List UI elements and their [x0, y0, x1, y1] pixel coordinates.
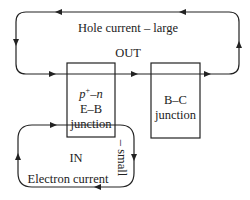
eb-junction-type: p+–n: [67, 83, 115, 102]
hole-current-arrows: [13, 9, 242, 77]
out-label: OUT: [115, 47, 141, 60]
arrow-down-icon: [131, 154, 137, 161]
arrow-right-icon: [131, 71, 138, 77]
hole-current-label: Hole current – large: [78, 22, 178, 35]
n-type-text: –n: [90, 87, 103, 101]
bc-junction-word: junction: [151, 108, 200, 123]
arrow-right-icon: [49, 71, 56, 77]
bc-label: B–C: [151, 93, 200, 108]
small-label: – small: [116, 140, 129, 176]
arrow-left-icon: [55, 9, 62, 15]
in-label: IN: [69, 152, 82, 165]
arrow-up-icon: [15, 153, 21, 160]
arrow-left-icon: [179, 9, 186, 15]
bc-junction-label: B–C junction: [151, 93, 200, 123]
eb-junction-label: p+–n E–B junction: [67, 83, 115, 132]
arrow-up-icon: [236, 41, 242, 48]
eb-label: E–B: [67, 102, 115, 117]
arrow-right-icon: [50, 122, 57, 128]
electron-current-label: Electron current: [28, 173, 109, 186]
eb-junction-word: junction: [67, 117, 115, 132]
arrow-right-icon: [204, 71, 211, 77]
arrow-down-icon: [13, 39, 19, 46]
